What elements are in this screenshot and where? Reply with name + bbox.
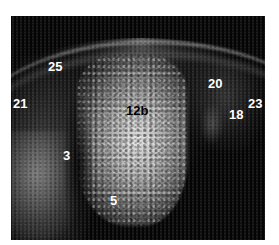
- label-12b: 12b: [126, 104, 148, 117]
- speckle-noise: [11, 16, 265, 240]
- label-23: 23: [248, 97, 262, 110]
- label-25: 25: [48, 60, 62, 73]
- label-18: 18: [229, 108, 243, 121]
- label-3: 3: [63, 149, 70, 162]
- label-5: 5: [110, 194, 117, 207]
- label-21: 21: [13, 97, 27, 110]
- label-20: 20: [208, 77, 222, 90]
- ultrasound-image: [11, 16, 265, 240]
